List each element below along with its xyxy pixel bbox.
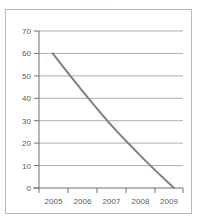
- chart-screenshot: · · · ·: [0, 0, 199, 223]
- x-tick-label: 2005: [45, 197, 63, 206]
- x-tick-label: 2008: [132, 197, 150, 206]
- y-tick-label: 20: [22, 139, 31, 148]
- line-chart: 70 60 50 40 30 20 10 0 2005 2006 2007 20…: [0, 0, 199, 223]
- y-tick-labels: 70 60 50 40 30 20 10 0: [22, 27, 31, 193]
- y-tick-label: 0: [27, 184, 32, 193]
- x-tick-marks: [39, 188, 183, 193]
- plot-area: 70 60 50 40 30 20 10 0 2005 2006 2007 20…: [0, 0, 199, 223]
- gridlines: [39, 31, 183, 166]
- y-tick-label: 30: [22, 117, 31, 126]
- y-tick-label: 60: [22, 49, 31, 58]
- y-tick-label: 40: [22, 94, 31, 103]
- x-tick-label: 2007: [103, 197, 121, 206]
- x-tick-label: 2009: [160, 197, 178, 206]
- y-tick-label: 50: [22, 72, 31, 81]
- x-tick-labels: 2005 2006 2007 2008 2009: [45, 197, 179, 206]
- y-tick-label: 70: [22, 27, 31, 36]
- y-tick-label: 10: [22, 162, 31, 171]
- x-tick-label: 2006: [74, 197, 92, 206]
- y-tick-marks: [34, 31, 39, 188]
